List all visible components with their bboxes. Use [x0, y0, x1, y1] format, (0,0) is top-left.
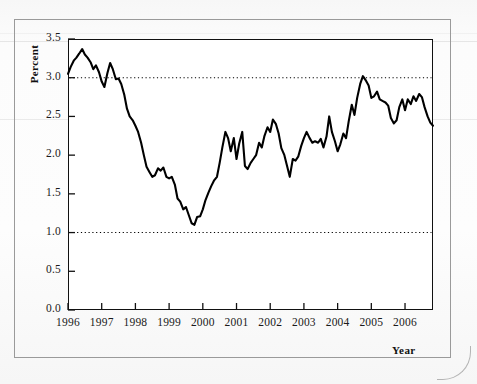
y-axis-title: Percent: [28, 24, 40, 104]
y-tick-label: 1.5: [27, 186, 61, 198]
plot-frame: [68, 39, 433, 310]
y-tick-label: 2.5: [27, 108, 61, 120]
x-axis-title: Year: [392, 344, 416, 356]
y-tick-label: 2.0: [27, 147, 61, 159]
y-tick-label: 1.0: [27, 225, 61, 237]
scanned-chart-page: 0.00.51.01.52.02.53.03.5 199619971998199…: [0, 0, 477, 384]
x-tick-label: 2006: [384, 316, 426, 328]
y-tick-label: 0.5: [27, 263, 61, 275]
y-tick-label: 0.0: [27, 302, 61, 314]
